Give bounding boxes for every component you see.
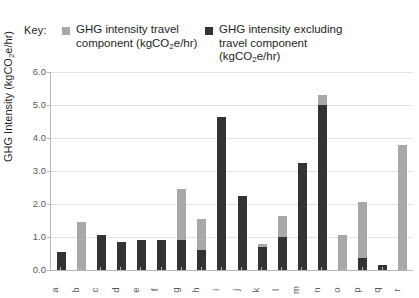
bar-segment-travel-component (278, 216, 287, 237)
y-axis-tick-label: 1.0 (33, 231, 46, 242)
x-axis-tick-mark (402, 267, 403, 271)
y-axis-tick-label: 6.0 (33, 66, 46, 77)
bar[interactable] (197, 219, 206, 270)
y-axis-title-pre: GHG Intensity (kgCO (2, 58, 14, 162)
bar-segment-excluding-travel (177, 240, 186, 270)
x-axis-tick-label: e (129, 287, 151, 292)
bar-segment-excluding-travel (117, 242, 126, 270)
bar[interactable] (318, 95, 327, 270)
bar[interactable] (117, 242, 126, 270)
y-axis-tick-label: 0.0 (33, 264, 46, 275)
plot-grid: 6.05.04.03.02.01.00.0 (50, 72, 413, 270)
legend-key-label: Key: (24, 24, 47, 36)
bar[interactable] (278, 216, 287, 270)
bar-segment-travel-component (197, 219, 206, 250)
x-axis-label-slot: g (171, 271, 191, 298)
legend-line-1: GHG intensity travel (76, 23, 179, 35)
bar-segment-excluding-travel (97, 235, 106, 270)
x-axis-label-slot: a (50, 271, 70, 298)
x-axis-tick-label: l (270, 289, 292, 291)
x-axis-tick-mark (161, 267, 162, 271)
bar-slot (51, 72, 71, 270)
y-axis-tick-label: 3.0 (33, 165, 46, 176)
x-axis-label-slot: k (251, 271, 271, 298)
legend-entry-label: GHG intensity excluding travel component… (219, 23, 342, 65)
bar-segment-excluding-travel (358, 258, 367, 270)
x-axis-tick-label: n (310, 287, 332, 292)
bar[interactable] (238, 196, 247, 270)
bar-segment-excluding-travel (298, 163, 307, 270)
bar[interactable] (57, 252, 66, 270)
x-axis-label-slot: n (311, 271, 331, 298)
bar-slot (252, 72, 272, 270)
x-axis-tick-label: g (170, 287, 192, 292)
bar[interactable] (137, 240, 146, 270)
x-axis-tick-mark (120, 267, 121, 271)
x-axis-tick-label: r (391, 288, 413, 291)
bar-slot (333, 72, 353, 270)
square-swatch-icon (62, 27, 70, 35)
x-axis-tick-mark (342, 267, 343, 271)
bar[interactable] (398, 145, 407, 270)
bar[interactable] (358, 202, 367, 270)
legend-subscript: 2 (252, 55, 256, 64)
legend-subscript: 2 (169, 42, 173, 51)
bar[interactable] (338, 235, 347, 270)
bar-slot (292, 72, 312, 270)
x-axis-label-slot: d (110, 271, 130, 298)
bar-segment-travel-component (77, 222, 86, 270)
bar[interactable] (97, 235, 106, 270)
bar-slot (152, 72, 172, 270)
x-axis-tick-mark (241, 267, 242, 271)
x-axis-label-slot: p (352, 271, 372, 298)
x-axis-tick-mark (281, 267, 282, 271)
bar-series-container (51, 72, 413, 270)
legend-entry-label: GHG intensity travel component (kgCO2e/h… (76, 23, 197, 51)
bar-segment-excluding-travel (238, 196, 247, 270)
bar[interactable] (378, 265, 387, 270)
bar-segment-travel-component (318, 95, 327, 105)
bar-slot (393, 72, 413, 270)
bar-slot (71, 72, 91, 270)
x-axis-label-slot: j (231, 271, 251, 298)
x-axis-tick-mark (362, 267, 363, 271)
x-axis-label-slot: i (211, 271, 231, 298)
x-axis-tick-label: f (150, 289, 172, 292)
x-axis-tick-label: q (371, 287, 393, 292)
bar[interactable] (258, 244, 267, 270)
bar[interactable] (298, 163, 307, 270)
x-axis-tick-mark (221, 267, 222, 271)
bar-slot (131, 72, 151, 270)
bar[interactable] (157, 240, 166, 270)
bar[interactable] (77, 222, 86, 270)
x-axis-tick-label: c (89, 288, 111, 293)
bar-segment-excluding-travel (57, 252, 66, 270)
x-axis-tick-label: m (290, 286, 312, 294)
legend-entry-travel-component: GHG intensity travel component (kgCO2e/h… (62, 23, 202, 51)
bar-slot (373, 72, 393, 270)
bar-slot (111, 72, 131, 270)
square-swatch-icon (205, 27, 213, 35)
y-axis-title: GHG Intensity (kgCO2e/hr) (2, 31, 14, 162)
legend-line-3: e/hr) (174, 37, 198, 49)
bar-slot (232, 72, 252, 270)
x-axis-tick-mark (100, 267, 101, 271)
y-axis-tick-label: 2.0 (33, 198, 46, 209)
y-axis-title-subscript: 2 (7, 54, 16, 58)
legend-line-2: travel component (219, 37, 307, 49)
x-axis-label-slot: r (392, 271, 412, 298)
bar-segment-excluding-travel (258, 247, 267, 270)
x-axis-tick-label: o (331, 287, 353, 292)
bar[interactable] (217, 117, 226, 270)
chart-plot-area: GHG Intensity (kgCO2e/hr) 6.05.04.03.02.… (0, 66, 419, 298)
bar-segment-excluding-travel (137, 240, 146, 270)
bar-segment-excluding-travel (318, 105, 327, 270)
x-axis-label-slot: e (130, 271, 150, 298)
x-axis-tick-label: d (109, 287, 131, 292)
x-axis-label-slot: l (271, 271, 291, 298)
x-axis-tick-label: h (190, 287, 212, 292)
x-axis-tick-mark (60, 267, 61, 271)
bar-slot (192, 72, 212, 270)
bar-segment-travel-component (358, 202, 367, 258)
bar[interactable] (177, 189, 186, 270)
